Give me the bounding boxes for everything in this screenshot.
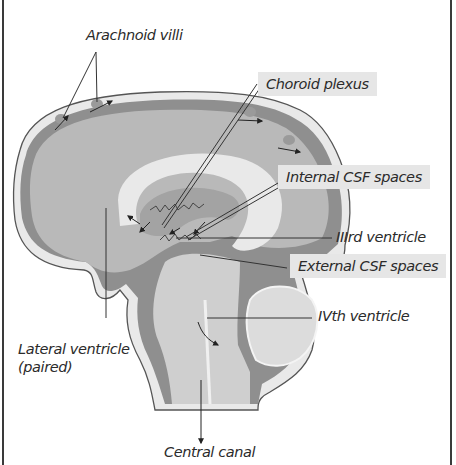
label-lateral-ventricle: Lateral ventricle (paired) bbox=[18, 340, 130, 376]
label-fourth-ventricle: IVth ventricle bbox=[318, 308, 409, 324]
label-third-ventricle: IIIrd ventricle bbox=[336, 229, 426, 245]
label-lateral-ventricle-line1: Lateral ventricle bbox=[18, 340, 130, 358]
label-external-csf-spaces: External CSF spaces bbox=[290, 254, 446, 278]
label-arachnoid-villi: Arachnoid villi bbox=[86, 27, 183, 43]
label-internal-csf-spaces: Internal CSF spaces bbox=[278, 165, 430, 189]
label-lateral-ventricle-line2: (paired) bbox=[18, 358, 130, 376]
label-choroid-plexus: Choroid plexus bbox=[258, 72, 377, 96]
label-central-canal: Central canal bbox=[164, 444, 255, 460]
